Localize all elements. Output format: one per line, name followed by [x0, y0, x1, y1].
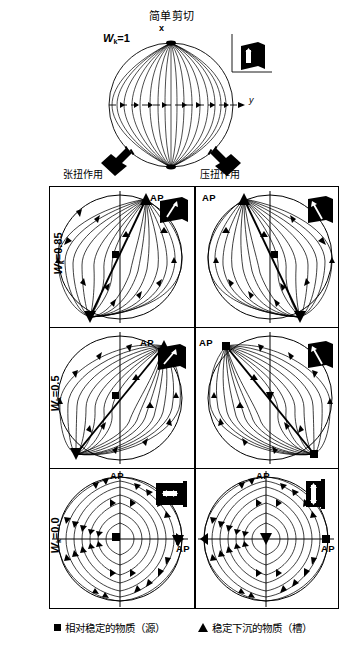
row-label-wk05: Wk=0.5 — [49, 375, 62, 411]
ap-label: AP — [256, 470, 270, 481]
row-label-wk085: Wk=0.85 — [52, 232, 65, 274]
strain-block-sinistral-45-icon — [308, 341, 333, 368]
simple-shear-strain-block-icon — [232, 34, 272, 72]
row-label-wk00: Wk=0.0 — [49, 517, 62, 553]
cell-wk00-transtension: AP AP — [50, 469, 194, 608]
cell-wk085-transpression: AP — [196, 187, 340, 327]
ap-label: AP — [150, 192, 164, 203]
legend-source-text: 相对稳定的物质（源） — [65, 622, 165, 634]
cell-wk05-transtension: AP — [50, 328, 194, 468]
strain-block-dextral-45-icon — [158, 344, 186, 370]
column-header-transpression: 压扭作用 — [200, 170, 240, 180]
figure-root: 简单剪切 Wk=1 x y — [0, 0, 343, 653]
cell-wk00-transpression: AP AP — [196, 469, 340, 608]
ap-label: AP — [321, 543, 335, 554]
strain-block-constriction-icon — [306, 479, 325, 509]
triangle-icon — [198, 623, 208, 632]
ap-label: AP — [202, 192, 216, 203]
simple-shear-sphere — [0, 0, 343, 190]
cell-wk05-transpression: AP — [196, 328, 340, 468]
square-icon — [54, 624, 61, 631]
cell-wk085-transtension: AP — [50, 187, 194, 327]
strain-block-dextral-steep-icon — [160, 197, 188, 223]
legend-item-source: 相对稳定的物质（源） — [54, 620, 165, 635]
strain-block-sinistral-steep-icon — [308, 196, 333, 223]
strain-block-flattening-icon — [156, 481, 187, 507]
ap-label: AP — [110, 470, 124, 481]
ap-label: AP — [140, 337, 154, 348]
ap-label: AP — [176, 543, 190, 554]
ap-label: AP — [199, 337, 213, 348]
legend-sink-text: 稳定下沉的物质（槽） — [212, 622, 312, 634]
legend: 相对稳定的物质（源） 稳定下沉的物质（槽） — [0, 620, 343, 640]
legend-item-sink: 稳定下沉的物质（槽） — [198, 620, 312, 635]
panel-grid: AP — [49, 186, 339, 609]
column-header-transtension: 张扭作用 — [63, 170, 103, 180]
